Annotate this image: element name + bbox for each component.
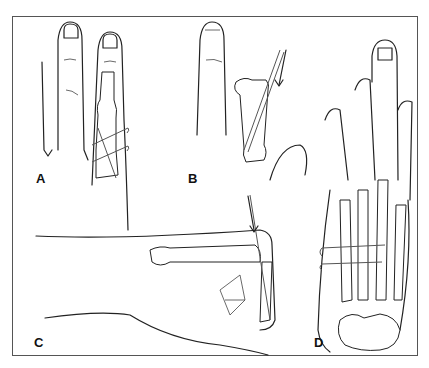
panel-label-b: B <box>188 171 197 186</box>
panel-d-drawing <box>318 40 412 352</box>
panel-c-drawing <box>36 195 275 355</box>
panel-label-a: A <box>36 171 45 186</box>
panel-label-d: D <box>314 335 323 350</box>
panel-a-drawing <box>42 22 129 230</box>
panel-b-drawing <box>197 22 307 180</box>
panel-label-c: C <box>34 335 43 350</box>
medical-illustration <box>0 0 429 368</box>
